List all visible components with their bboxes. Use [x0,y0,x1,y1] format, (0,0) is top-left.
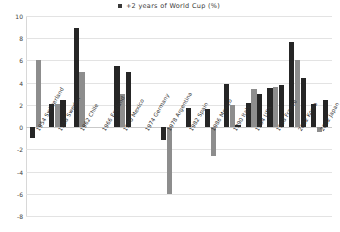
grid-line [26,216,332,217]
bar [273,87,278,127]
y-axis-tick-label: 6 [19,57,23,64]
bar [205,109,210,127]
y-axis-tick-label: -6 [17,190,23,197]
y-axis-tick-label: -2 [17,146,23,153]
bar [74,28,79,127]
y-axis-tick-label: 10 [15,13,23,20]
bar [251,89,256,127]
bar [167,127,172,194]
y-axis-tick-label: 2 [19,101,23,108]
y-axis-tick-label: 0 [19,124,23,131]
y-axis-tick-label: 4 [19,79,23,86]
legend-label: +2 years of World Cup (%) [126,2,220,10]
y-axis-tick-label: 8 [19,35,23,42]
chart-legend: +2 years of World Cup (%) [0,2,338,10]
legend-square-marker-icon [118,4,122,8]
y-axis-tick-label: -4 [17,168,23,175]
bar [295,60,300,127]
y-axis-tick-label: -8 [17,213,23,220]
bar [36,60,41,127]
